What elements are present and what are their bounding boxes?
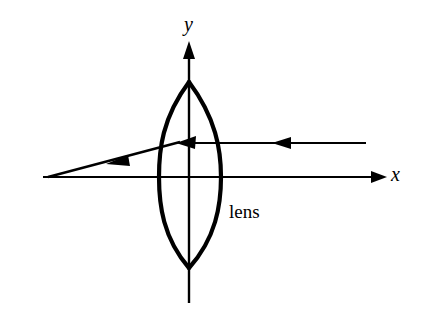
x-axis-arrowhead-icon [371, 171, 387, 183]
y-axis-arrowhead-icon [183, 41, 195, 59]
diagram-canvas [0, 0, 421, 332]
lens-left-surface [159, 82, 189, 268]
x-axis [43, 171, 387, 183]
lens-ray-diagram: y x lens [0, 0, 421, 332]
y-axis-label: y [184, 14, 193, 34]
lens-label: lens [229, 202, 260, 221]
x-axis-label: x [391, 164, 400, 184]
lens-right-surface [189, 82, 221, 268]
incoming-ray-arrowhead-icon [272, 137, 291, 149]
incoming-ray [176, 136, 366, 149]
